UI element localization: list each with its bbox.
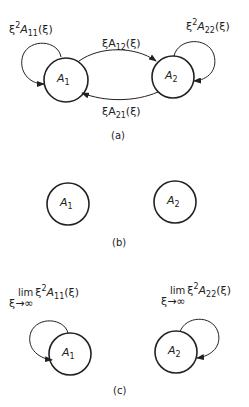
panel-b: A1 A2 (b) <box>47 181 196 248</box>
self-loop-a1 <box>22 43 61 84</box>
label-self-1: ξ2A11(ξ) <box>9 21 53 38</box>
node-c1-label: A1 <box>61 346 75 361</box>
caption-c: (c) <box>113 385 126 396</box>
caption-b: (b) <box>112 237 126 248</box>
label-c-under-2: ξ→∞ <box>161 295 186 308</box>
caption-a: (a) <box>111 130 125 141</box>
label-e12: ξA12(ξ) <box>102 37 141 52</box>
label-c-under-1: ξ→∞ <box>9 297 34 310</box>
label-self-2: ξ2A22(ξ) <box>186 18 230 35</box>
edge-a2-a1 <box>82 92 158 100</box>
node-a2-label: A2 <box>164 69 178 84</box>
node-b1-label: A1 <box>59 196 73 211</box>
node-b2-label: A2 <box>166 194 180 209</box>
panel-a: A1 A2 ξ2A11(ξ) ξ2A22(ξ) ξA12(ξ) ξA21(ξ) … <box>9 18 230 141</box>
label-e21: ξA21(ξ) <box>102 105 141 120</box>
self-loop-c2 <box>180 319 219 358</box>
diagram: A1 A2 ξ2A11(ξ) ξ2A22(ξ) ξA12(ξ) ξA21(ξ) … <box>0 0 249 407</box>
node-c2-label: A2 <box>167 344 181 359</box>
panel-c: A1 A2 limξ2A11(ξ) ξ→∞ limξ2A22(ξ) ξ→∞ (c… <box>9 282 231 396</box>
node-a1-label: A1 <box>56 72 70 87</box>
